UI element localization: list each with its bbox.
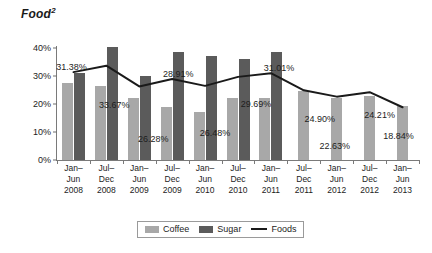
x-axis-category-line: Jan– <box>130 163 149 174</box>
x-axis-category-label: Jul–Dec2009 <box>163 163 182 196</box>
x-axis-category-line: 2009 <box>130 185 149 196</box>
y-axis-tick-label: 10% <box>33 127 51 137</box>
x-axis-category-label: Jan–Jun2009 <box>130 163 149 196</box>
x-axis-category-line: Jun <box>130 174 149 185</box>
data-label: 24.90% <box>305 114 336 124</box>
x-axis-category-line: 2008 <box>97 185 116 196</box>
x-axis-category-line: 2009 <box>163 185 182 196</box>
legend-swatch-foods-icon <box>251 228 267 230</box>
x-axis-category-line: Jan– <box>327 163 346 174</box>
x-axis-category-line: Jul– <box>97 163 116 174</box>
x-axis-category-label: Jan–Jun2008 <box>64 163 83 196</box>
x-axis-category-line: Jun <box>64 174 83 185</box>
legend-label: Coffee <box>163 224 189 234</box>
x-axis-category-line: 2011 <box>295 185 313 196</box>
data-label: 26.28% <box>138 134 169 144</box>
x-axis-line <box>56 160 419 161</box>
x-axis-category-line: Dec <box>163 174 182 185</box>
x-axis-category-line: 2012 <box>327 185 346 196</box>
data-label: 29.69% <box>241 99 272 109</box>
x-axis-category-label: Jul–Dec2008 <box>97 163 116 196</box>
data-label: 31.01% <box>264 63 295 73</box>
y-axis-tick-label: 0% <box>38 155 51 165</box>
plot-area: 0%10%20%30%40% 31.38%33.67%26.28%28.91%2… <box>57 48 419 160</box>
y-axis-tick-label: 20% <box>33 99 51 109</box>
data-label: 24.21% <box>364 110 395 120</box>
x-axis-category-line: Jun <box>327 174 346 185</box>
data-label: 33.67% <box>99 100 130 110</box>
x-axis-category-label: Jul–Dec2011 <box>295 163 313 196</box>
x-axis-category-label: Jan–Jun2012 <box>327 163 346 196</box>
chart-title-text: Food <box>21 7 51 21</box>
x-axis-category-labels: Jan–Jun2008Jul–Dec2008Jan–Jun2009Jul–Dec… <box>57 163 419 209</box>
x-axis-category-line: Dec <box>97 174 116 185</box>
x-axis-category-line: Dec <box>295 174 313 185</box>
data-label: 31.38% <box>56 62 87 72</box>
x-axis-category-line: Jan– <box>262 163 280 174</box>
x-axis-category-line: 2011 <box>262 185 280 196</box>
legend-label: Sugar <box>217 224 241 234</box>
x-axis-category-label: Jan–Jun2011 <box>262 163 280 196</box>
data-label: 18.84% <box>383 131 414 141</box>
y-axis-tick-label: 40% <box>33 43 51 53</box>
x-axis-category-line: Jun <box>196 174 215 185</box>
x-axis-category-line: Jun <box>393 174 412 185</box>
x-axis-tick-mark <box>419 160 420 164</box>
x-axis-category-line: Jul– <box>163 163 182 174</box>
x-axis-category-label: Jan–Jun2010 <box>196 163 215 196</box>
x-axis-category-line: 2010 <box>229 185 248 196</box>
x-axis-category-line: 2013 <box>393 185 412 196</box>
x-axis-category-line: 2010 <box>196 185 215 196</box>
legend-item-foods[interactable]: Foods <box>251 224 296 234</box>
x-axis-category-line: Dec <box>360 174 379 185</box>
legend-item-sugar[interactable]: Sugar <box>199 224 241 234</box>
legend: CoffeeSugarFoods <box>137 221 304 238</box>
data-label: 22.63% <box>319 141 350 151</box>
x-axis-category-line: Jul– <box>295 163 313 174</box>
x-axis-category-line: Dec <box>229 174 248 185</box>
chart-title-superscript: 2 <box>51 6 56 15</box>
data-label: 28.91% <box>163 69 194 79</box>
x-axis-category-line: Jul– <box>229 163 248 174</box>
x-axis-category-label: Jan–Jun2013 <box>393 163 412 196</box>
legend-swatch-sugar-icon <box>199 226 213 233</box>
x-axis-category-line: Jan– <box>393 163 412 174</box>
chart-screenshot: Food2 0%10%20%30%40% 31.38%33.67%26.28%2… <box>0 0 432 253</box>
page-title: Food2 <box>21 6 56 21</box>
legend-item-coffee[interactable]: Coffee <box>145 224 189 234</box>
x-axis-category-line: Jul– <box>360 163 379 174</box>
legend-label: Foods <box>271 224 296 234</box>
data-label: 26.48% <box>200 128 231 138</box>
x-axis-category-label: Jul–Dec2010 <box>229 163 248 196</box>
x-axis-category-line: Jan– <box>196 163 215 174</box>
x-axis-category-line: Jun <box>262 174 280 185</box>
x-axis-category-line: Jan– <box>64 163 83 174</box>
x-axis-category-label: Jul–Dec2012 <box>360 163 379 196</box>
legend-swatch-coffee-icon <box>145 226 159 233</box>
x-axis-category-line: 2012 <box>360 185 379 196</box>
y-axis-tick-label: 30% <box>33 71 51 81</box>
x-axis-category-line: 2008 <box>64 185 83 196</box>
